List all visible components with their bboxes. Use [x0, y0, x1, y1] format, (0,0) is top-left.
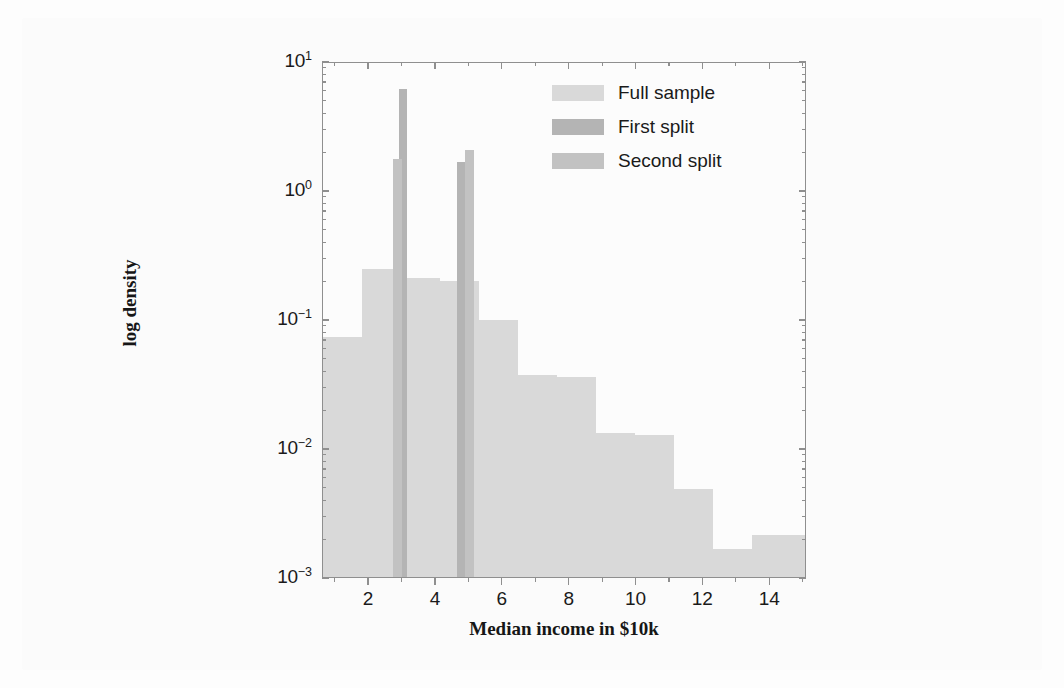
- axis-tick: [799, 448, 806, 449]
- histogram-bar: [596, 433, 635, 578]
- legend-label: First split: [618, 116, 694, 138]
- axis-tick: [799, 190, 806, 191]
- legend-swatch-icon: [552, 119, 604, 135]
- histogram-bar: [752, 535, 806, 578]
- axis-tick: [802, 258, 806, 259]
- axis-tick: [322, 100, 326, 101]
- axis-tick: [602, 62, 603, 66]
- histogram-bar: [323, 337, 362, 578]
- axis-tick: [802, 578, 803, 582]
- axis-tick: [322, 152, 326, 153]
- histogram-bar: [518, 375, 557, 578]
- axis-tick: [322, 319, 329, 320]
- axis-tick: [501, 578, 502, 585]
- axis-tick: [401, 578, 402, 582]
- axis-tick: [401, 62, 402, 66]
- axis-tick: [334, 62, 335, 66]
- axis-tick: [802, 516, 806, 517]
- axis-tick: [802, 461, 806, 462]
- axis-tick: [802, 67, 806, 68]
- axis-tick: [799, 319, 806, 320]
- axis-tick: [322, 332, 326, 333]
- axis-tick: [322, 487, 326, 488]
- axis-tick: [802, 358, 806, 359]
- axis-tick: [802, 387, 806, 388]
- axis-tick: [802, 242, 806, 243]
- axis-tick: [802, 90, 806, 91]
- axis-tick: [802, 325, 806, 326]
- axis-tick: [568, 62, 569, 69]
- axis-tick: [501, 62, 502, 69]
- axis-tick: [802, 348, 806, 349]
- axis-tick: [668, 62, 669, 66]
- axis-tick: [322, 129, 326, 130]
- axis-tick: [367, 578, 368, 585]
- axis-tick: [802, 410, 806, 411]
- axis-tick: [322, 67, 326, 68]
- axis-tick: [322, 74, 326, 75]
- axis-tick: [322, 203, 326, 204]
- legend-item: Full sample: [552, 82, 722, 104]
- axis-tick: [322, 219, 326, 220]
- y-tick-label: 101: [285, 49, 313, 72]
- axis-tick: [468, 578, 469, 582]
- axis-tick: [322, 448, 329, 449]
- histogram-bar: [674, 489, 713, 578]
- y-tick-label: 100: [285, 178, 313, 201]
- x-tick-label: 4: [405, 588, 465, 610]
- axis-tick: [322, 477, 326, 478]
- axis-tick: [802, 74, 806, 75]
- axis-tick: [322, 371, 326, 372]
- axis-tick: [322, 61, 329, 62]
- histogram-bar: [635, 435, 674, 578]
- axis-tick: [702, 578, 703, 585]
- axis-tick: [322, 577, 329, 578]
- legend-item: Second split: [552, 150, 722, 172]
- axis-tick: [322, 339, 326, 340]
- y-tick-label: 10−1: [277, 307, 312, 330]
- axis-tick: [468, 62, 469, 66]
- legend: Full sampleFirst splitSecond split: [552, 82, 722, 172]
- axis-tick: [802, 113, 806, 114]
- axis-tick: [668, 578, 669, 582]
- axis-tick: [322, 113, 326, 114]
- axis-tick: [802, 339, 806, 340]
- axis-tick: [802, 332, 806, 333]
- axis-tick: [802, 487, 806, 488]
- y-tick-label: 10−2: [277, 436, 312, 459]
- axis-tick: [322, 461, 326, 462]
- axis-tick: [802, 152, 806, 153]
- x-tick-label: 10: [606, 588, 666, 610]
- legend-swatch-icon: [552, 153, 604, 169]
- axis-tick: [568, 578, 569, 585]
- axis-tick: [322, 81, 326, 82]
- axis-tick: [535, 578, 536, 582]
- axis-tick: [802, 100, 806, 101]
- axis-tick: [802, 468, 806, 469]
- legend-label: Full sample: [618, 82, 715, 104]
- axis-tick: [322, 468, 326, 469]
- x-tick-label: 8: [539, 588, 599, 610]
- axis-tick: [322, 210, 326, 211]
- axis-tick: [802, 129, 806, 130]
- axis-tick: [802, 371, 806, 372]
- axis-tick: [769, 578, 770, 585]
- axis-tick: [635, 578, 636, 585]
- legend-label: Second split: [618, 150, 722, 172]
- x-tick-label: 12: [672, 588, 732, 610]
- axis-tick: [367, 62, 368, 69]
- axis-tick: [802, 219, 806, 220]
- axis-tick: [802, 454, 806, 455]
- axis-tick: [322, 454, 326, 455]
- x-tick-label: 14: [739, 588, 799, 610]
- x-axis-title: Median income in $10k: [322, 618, 806, 640]
- axis-tick: [802, 210, 806, 211]
- axis-tick: [735, 578, 736, 582]
- axis-tick: [702, 62, 703, 69]
- axis-tick: [802, 500, 806, 501]
- axis-tick: [769, 62, 770, 69]
- axis-tick: [322, 325, 326, 326]
- axis-tick: [322, 190, 329, 191]
- axis-tick: [322, 387, 326, 388]
- axis-tick: [735, 62, 736, 66]
